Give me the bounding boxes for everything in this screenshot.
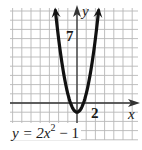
equation-exponent: 2 — [50, 122, 55, 133]
axes — [10, 5, 140, 140]
y-axis-label: y — [82, 4, 89, 19]
x-axis-label: x — [128, 107, 135, 122]
equation-label: y = 2x2 − 1 — [10, 123, 81, 140]
y-tick-label-7: 7 — [66, 29, 74, 44]
equation-suffix: − 1 — [55, 125, 78, 141]
grid-lines — [10, 8, 138, 140]
x-tick-label-2: 2 — [91, 106, 99, 121]
equation-prefix: y = 2x — [12, 125, 50, 141]
